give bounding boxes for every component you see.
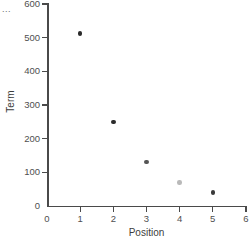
y-axis-tick-label: 600: [10, 0, 40, 9]
y-axis-tick: [42, 138, 48, 139]
scatter-plot-figure: ... 0100200300400500600 0123456 Term Pos…: [0, 0, 249, 241]
y-axis-tick-label: 100: [10, 167, 40, 177]
data-point: [144, 160, 148, 164]
x-axis-tick-label: 1: [70, 214, 90, 224]
x-axis-tick-label: 0: [37, 214, 57, 224]
x-axis-tick: [80, 206, 81, 212]
x-axis-tick: [113, 206, 114, 212]
y-axis-title: Term: [5, 77, 16, 127]
x-axis-title: Position: [47, 227, 246, 238]
x-axis-tick-label: 6: [236, 214, 249, 224]
y-axis-tick-label-text: 600: [14, 0, 40, 9]
y-axis-tick: [42, 104, 48, 105]
y-axis-tick-label: 400: [10, 66, 40, 76]
y-axis-tick-label-text: 400: [14, 66, 40, 76]
data-point: [111, 120, 115, 124]
x-axis-tick: [179, 206, 180, 212]
y-axis-tick: [42, 37, 48, 38]
y-axis-tick-label-text: 200: [14, 134, 40, 144]
y-axis-tick-label: 0: [10, 201, 40, 211]
x-axis-tick-label: 5: [203, 214, 223, 224]
y-axis-tick-label-text: 0: [14, 201, 40, 211]
y-axis-tick-label: 500: [10, 33, 40, 43]
y-axis-tick: [42, 3, 48, 4]
y-axis-tick: [42, 172, 48, 173]
x-axis-tick-label: 3: [136, 214, 156, 224]
data-point: [177, 180, 181, 184]
data-point: [78, 31, 82, 35]
y-axis-tick-label-text: 300: [14, 100, 40, 110]
x-axis-tick-label: 2: [103, 214, 123, 224]
x-axis-tick: [212, 206, 213, 212]
x-axis-tick-label: 4: [170, 214, 190, 224]
y-axis-tick-label: 200: [10, 134, 40, 144]
data-point: [211, 190, 215, 194]
x-axis-tick: [146, 206, 147, 212]
y-axis-tick: [42, 71, 48, 72]
y-axis-tick-label-text: 100: [14, 167, 40, 177]
x-axis-tick: [245, 206, 246, 212]
y-axis-tick-label-text: 500: [14, 33, 40, 43]
